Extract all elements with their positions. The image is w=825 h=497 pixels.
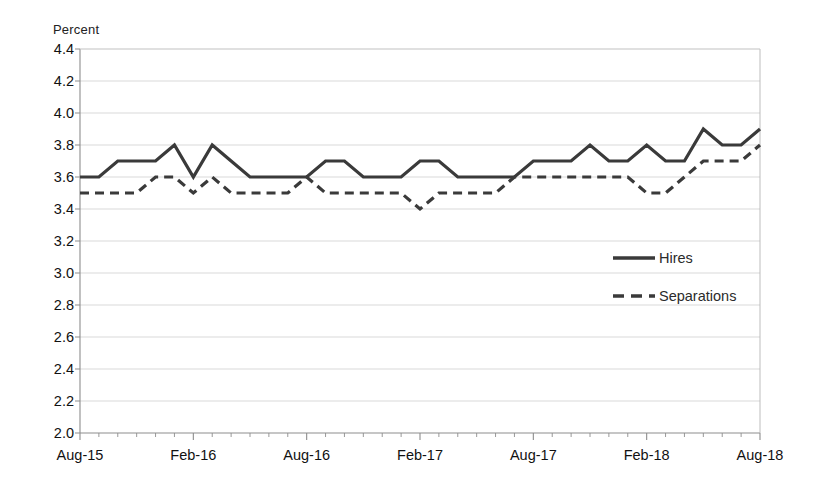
gridlines <box>80 49 760 401</box>
x-axis-ticks <box>80 433 760 440</box>
y-axis-ticks <box>75 49 80 433</box>
legend-label-separations: Separations <box>659 288 736 304</box>
jolts-hires-separations-chart: Percent 4.44.24.03.83.63.43.23.02.82.62.… <box>0 0 825 497</box>
series-line-hires <box>80 129 760 177</box>
plot-area: HiresSeparations <box>0 0 825 497</box>
data-series-lines <box>80 129 760 209</box>
legend-label-hires: Hires <box>659 250 693 266</box>
chart-legend: HiresSeparations <box>613 250 736 304</box>
